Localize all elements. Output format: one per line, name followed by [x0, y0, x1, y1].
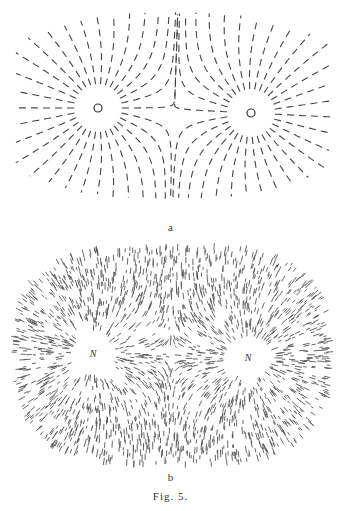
figure-b-iron-filings: NN [0, 238, 341, 470]
panel-label-b: b [0, 471, 341, 483]
pole-marker-icon [247, 109, 255, 117]
pole-label-n: N [244, 352, 253, 363]
figure-a-field-lines [0, 0, 341, 220]
pole-label-n: N [89, 348, 98, 359]
panel-label-a: a [0, 221, 341, 233]
pole-marker-icon [94, 104, 102, 112]
figure-caption: Fig. 5. [0, 490, 341, 502]
